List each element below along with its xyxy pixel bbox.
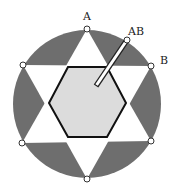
point-left-lower[interactable]: [19, 140, 25, 146]
label-a: A: [82, 10, 92, 23]
point-bottom[interactable]: [84, 176, 90, 182]
hexagram-diagram: A AB B: [0, 0, 176, 193]
label-b: B: [160, 54, 168, 67]
point-b[interactable]: [148, 63, 154, 69]
point-a[interactable]: [84, 26, 90, 32]
label-ab: AB: [127, 25, 144, 38]
point-left-upper[interactable]: [20, 62, 26, 68]
point-right-lower[interactable]: [148, 138, 154, 144]
